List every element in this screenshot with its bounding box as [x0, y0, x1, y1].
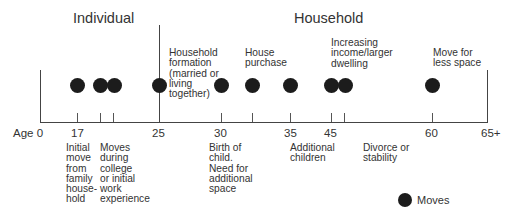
section-title-household: Household — [294, 10, 363, 26]
axis-label-25: 25 — [152, 127, 165, 139]
age-axis-line — [40, 122, 488, 123]
move-dot — [70, 78, 85, 93]
axis-label-65-plus: 65+ — [481, 127, 501, 139]
axis-label-45: 45 — [324, 127, 337, 139]
axis-left-boundary — [40, 70, 41, 123]
event-house-purchase: House purchase — [245, 48, 287, 69]
move-dot — [245, 78, 260, 93]
axis-right-boundary — [487, 70, 488, 123]
legend-label: Moves — [417, 194, 449, 206]
event-birth-of-child: Birth of child. Need for additional spac… — [209, 143, 253, 194]
event-household-formation: Household formation (married or living t… — [169, 48, 219, 99]
event-increasing-income: Increasing income/larger dwelling — [331, 38, 393, 69]
axis-label-60: 60 — [425, 127, 438, 139]
section-title-individual: Individual — [73, 10, 134, 26]
axis-tick — [331, 113, 332, 122]
axis-label-30: 30 — [214, 127, 227, 139]
axis-tick — [432, 113, 433, 122]
move-dot — [324, 78, 339, 93]
event-move-for-less-space: Move for less space — [433, 48, 481, 69]
move-dot — [425, 78, 440, 93]
event-divorce-or-stability: Divorce or stability — [363, 143, 409, 164]
move-dot — [152, 78, 167, 93]
axis-tick — [290, 113, 291, 122]
axis-label-35: 35 — [284, 127, 297, 139]
axis-tick — [221, 113, 222, 122]
move-dot — [338, 78, 353, 93]
event-additional-children: Additional children — [290, 143, 335, 164]
legend: Moves — [398, 193, 449, 207]
move-dot — [283, 78, 298, 93]
axis-tick — [344, 113, 345, 122]
axis-tick — [113, 113, 114, 122]
axis-label-17: 17 — [71, 127, 84, 139]
axis-prefix-label: Age 0 — [13, 127, 43, 139]
axis-tick — [77, 113, 78, 122]
move-dot — [107, 78, 122, 93]
axis-tick — [252, 113, 253, 122]
axis-tick — [100, 113, 101, 122]
move-dot — [93, 78, 108, 93]
legend-dot-icon — [398, 193, 412, 207]
event-initial-move: Initial move from family house- hold — [66, 143, 97, 205]
life-stage-divider — [159, 25, 160, 122]
event-college-moves: Moves during college or initial work exp… — [100, 143, 150, 205]
